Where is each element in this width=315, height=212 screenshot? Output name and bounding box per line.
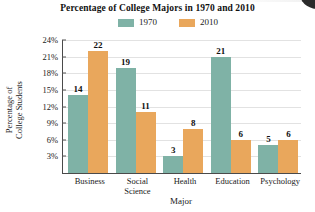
bar-1970[interactable] (116, 68, 136, 173)
category-label-line: Science (110, 186, 164, 196)
category-label: SocialScience (110, 176, 164, 196)
bar-2010[interactable] (136, 112, 156, 173)
category-label-line: Social (110, 176, 164, 186)
bar-value-label: 14 (68, 84, 88, 94)
y-axis-title-line2: College Students (14, 81, 24, 139)
y-axis-tick-label: 21% (42, 52, 58, 62)
bar-value-label: 6 (278, 129, 298, 139)
chart-figure: Percentage of College Majors in 1970 and… (0, 0, 315, 212)
bar-2010[interactable] (231, 140, 251, 173)
bar-value-label: 8 (183, 118, 203, 128)
category-label: Psychology (253, 176, 307, 186)
y-axis-tick-label: 3% (47, 151, 58, 161)
bar-value-label: 5 (258, 134, 278, 144)
bar-value-label: 3 (163, 145, 183, 155)
category-label-line: Education (206, 176, 260, 186)
category-label-line: Health (158, 176, 212, 186)
bar-2010[interactable] (183, 129, 203, 173)
bar-value-label: 19 (116, 57, 136, 67)
bar-2010[interactable] (88, 51, 108, 173)
page-edge-shading (0, 0, 315, 2)
category-label-line: Business (63, 176, 117, 186)
bar-group: 1911 (114, 40, 162, 173)
bar-1970[interactable] (258, 145, 278, 173)
bar-value-label: 22 (88, 40, 108, 50)
bar-value-label: 11 (136, 101, 156, 111)
legend-label-2010: 2010 (200, 18, 218, 27)
bar-group: 1422 (66, 40, 114, 173)
bar-2010[interactable] (278, 140, 298, 173)
legend-label-1970: 1970 (139, 18, 157, 27)
bar-group: 38 (161, 40, 209, 173)
category-label: Business (63, 176, 117, 186)
chart-title: Percentage of College Majors in 1970 and… (0, 3, 315, 13)
category-label-line: Psychology (253, 176, 307, 186)
category-label: Education (206, 176, 260, 186)
bars-layer: 142219113821656 (62, 40, 300, 173)
x-axis-title: Major (62, 196, 300, 206)
chart-legend: 1970 2010 (118, 18, 218, 27)
y-axis-title: Percentage of College Students (2, 62, 26, 158)
y-axis-title-line1: Percentage of (4, 81, 14, 139)
bar-1970[interactable] (211, 57, 231, 173)
bar-1970[interactable] (68, 95, 88, 173)
y-axis-tick-labels: 24%21%18%15%12%9%6%3% (26, 40, 60, 173)
bar-group: 56 (256, 40, 304, 173)
legend-entry-2010: 2010 (179, 18, 218, 27)
bar-group: 216 (209, 40, 257, 173)
y-axis-tick-label: 9% (47, 118, 58, 128)
legend-entry-1970: 1970 (118, 18, 157, 27)
y-axis-tick-label: 24% (42, 35, 58, 45)
bar-value-label: 21 (211, 46, 231, 56)
y-axis-tick-label: 15% (42, 85, 58, 95)
bar-1970[interactable] (163, 156, 183, 173)
y-axis-tick-label: 12% (42, 102, 58, 112)
y-axis-tick-label: 18% (42, 68, 58, 78)
y-axis-tick-label: 6% (47, 135, 58, 145)
category-label: Health (158, 176, 212, 186)
legend-swatch-1970 (118, 19, 134, 27)
legend-swatch-2010 (179, 19, 195, 27)
bar-value-label: 6 (231, 129, 251, 139)
